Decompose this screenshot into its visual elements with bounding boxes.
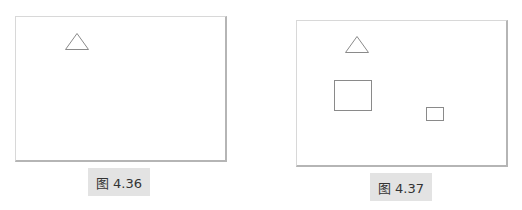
figure-4-36-canvas <box>15 16 227 162</box>
figure-caption: 图 4.36 <box>88 168 150 196</box>
small-rectangle-shape <box>426 107 444 122</box>
figure-caption: 图 4.37 <box>370 173 432 201</box>
triangle-icon <box>345 36 369 53</box>
large-rectangle-shape <box>334 80 372 112</box>
triangle-icon <box>65 33 89 50</box>
figure-4-37-canvas <box>296 20 508 167</box>
